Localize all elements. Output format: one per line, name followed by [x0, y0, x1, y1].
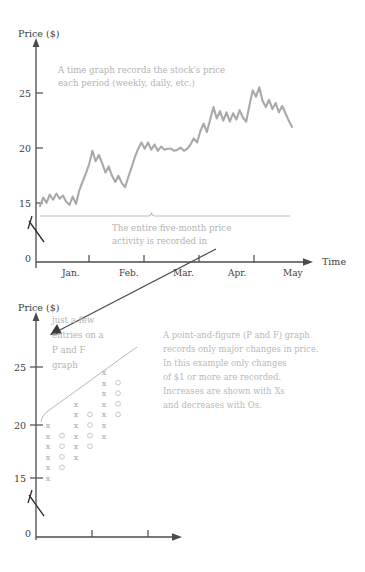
pf-mark-x: x	[102, 410, 107, 419]
pf-mark-o	[88, 433, 93, 438]
pf-mark-o	[60, 433, 65, 438]
figure-root: 0 15 20 25 Price ($) Time Jan. Feb. Mar.…	[0, 0, 365, 572]
bottom-chart-ytick-0: 0	[25, 528, 31, 539]
top-chart-xtick-may: May	[283, 268, 304, 278]
bottom-chart-y-axis-label: Price ($)	[18, 302, 59, 313]
pf-mark-x: x	[102, 379, 107, 388]
pf-mark-x: x	[46, 432, 51, 441]
pf-mark-x: x	[74, 410, 79, 419]
pf-mark-x: x	[74, 400, 79, 409]
pf-mark-o	[116, 391, 121, 396]
pf-mark-x: x	[46, 453, 51, 462]
pf-mark-o	[60, 444, 65, 449]
pf-mark-o	[116, 380, 121, 385]
bottom-chart-note-line-1: A point-and-figure (P and F) graph	[162, 330, 310, 340]
bottom-chart-note-line-5: Increases are shown with Xs	[163, 386, 285, 396]
bottom-chart-ytick-20: 20	[14, 420, 26, 431]
top-chart-ytick-0: 0	[25, 253, 31, 264]
bottom-chart-ytick-25: 25	[14, 362, 26, 373]
top-chart-brace	[40, 213, 290, 217]
bottom-chart-group: xxxxxxxxxxxxxxxxxxx 0 15 20 25 Price ($)…	[14, 302, 319, 541]
pf-mark-x: x	[46, 474, 51, 483]
bottom-chart-annotation-line-3: P and F	[52, 345, 85, 355]
pf-mark-x: x	[46, 421, 51, 430]
bottom-chart-annotation-line-1: just a few	[51, 315, 95, 325]
pf-mark-x: x	[46, 463, 51, 472]
top-chart-ytick-15: 15	[19, 198, 31, 209]
bottom-chart-trend-line	[41, 347, 137, 422]
figure-canvas: 0 15 20 25 Price ($) Time Jan. Feb. Mar.…	[0, 0, 365, 572]
top-chart-x-axis-label: Time	[322, 256, 346, 267]
top-chart-annotation-line-1: A time graph records the stock's price	[57, 65, 225, 75]
top-chart-y-ticks	[36, 93, 43, 203]
top-chart-ytick-25: 25	[19, 88, 31, 99]
top-chart-ytick-20: 20	[19, 143, 31, 154]
pf-mark-x: x	[74, 442, 79, 451]
pf-mark-o	[88, 423, 93, 428]
top-chart-group: 0 15 20 25 Price ($) Time Jan. Feb. Mar.…	[18, 28, 346, 278]
pf-mark-o	[60, 454, 65, 459]
pf-mark-x: x	[74, 453, 79, 462]
top-chart-y-axis-label: Price ($)	[18, 28, 59, 39]
bottom-chart-annotation-line-4: graph	[52, 360, 78, 370]
top-chart-x-ticks	[89, 255, 254, 262]
top-chart-brace-note-line-1: The entire five-month price	[112, 223, 231, 233]
bottom-chart-note-line-4: of $1 or more are recorded.	[163, 372, 281, 382]
bottom-chart-ytick-15: 15	[14, 473, 26, 484]
pf-mark-x: x	[102, 368, 107, 377]
bottom-chart-x-ticks	[92, 530, 148, 537]
bottom-chart-note-line-2: records only major changes in price.	[163, 344, 319, 354]
top-chart-price-line	[40, 87, 292, 206]
pf-mark-o	[60, 465, 65, 470]
bottom-chart-note-line-6: and decreases with Os.	[163, 400, 262, 410]
pf-mark-x: x	[102, 389, 107, 398]
bottom-chart-x-axis	[36, 533, 182, 540]
top-chart-annotation-line-2: each period (weekly, daily, etc.)	[58, 78, 195, 88]
pf-mark-x: x	[46, 442, 51, 451]
pf-mark-o	[88, 444, 93, 449]
top-chart-x-axis	[36, 258, 313, 265]
pf-mark-x: x	[102, 400, 107, 409]
pf-mark-o	[88, 412, 93, 417]
pf-mark-x: x	[74, 432, 79, 441]
top-chart-xtick-jan: Jan.	[61, 268, 80, 278]
pf-mark-o	[116, 401, 121, 406]
top-chart-xtick-apr: Apr.	[227, 268, 247, 278]
top-chart-brace-note-line-2: activity is recorded in	[112, 236, 208, 246]
pf-mark-x: x	[102, 421, 107, 430]
pf-mark-o	[116, 412, 121, 417]
pf-mark-x: x	[102, 432, 107, 441]
bottom-chart-note-line-3: In this example only changes	[163, 358, 287, 368]
pf-mark-x: x	[74, 421, 79, 430]
top-chart-xtick-feb: Feb.	[119, 268, 139, 278]
bottom-chart-annotation-line-2: entries on a	[52, 330, 104, 340]
